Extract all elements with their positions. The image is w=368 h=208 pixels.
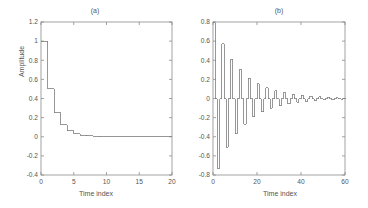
svg-text:20: 20 bbox=[168, 178, 176, 185]
panel-b-plot-area: 0204060-0.8-0.6-0.4-0.200.20.40.60.8 bbox=[184, 0, 368, 208]
svg-text:-0.6: -0.6 bbox=[199, 152, 211, 159]
svg-text:0: 0 bbox=[206, 95, 210, 102]
svg-text:-0.2: -0.2 bbox=[27, 152, 39, 159]
svg-text:1.2: 1.2 bbox=[29, 18, 38, 25]
svg-text:20: 20 bbox=[253, 178, 261, 185]
svg-text:0.6: 0.6 bbox=[29, 76, 38, 83]
svg-text:10: 10 bbox=[103, 178, 111, 185]
svg-text:-0.8: -0.8 bbox=[199, 171, 211, 178]
svg-text:0.8: 0.8 bbox=[29, 57, 38, 64]
panel-a-plot-area: 05101520-0.4-0.200.20.40.60.811.2 bbox=[0, 0, 184, 208]
svg-text:40: 40 bbox=[297, 178, 305, 185]
svg-text:60: 60 bbox=[341, 178, 349, 185]
svg-text:-0.4: -0.4 bbox=[27, 171, 39, 178]
svg-text:0.4: 0.4 bbox=[29, 95, 38, 102]
svg-text:0.8: 0.8 bbox=[201, 18, 210, 25]
svg-text:0: 0 bbox=[39, 178, 43, 185]
figure-canvas: (a) Amplitude Time index 05101520-0.4-0.… bbox=[0, 0, 368, 208]
svg-text:0: 0 bbox=[211, 178, 215, 185]
svg-text:0.2: 0.2 bbox=[29, 114, 38, 121]
svg-text:5: 5 bbox=[72, 178, 76, 185]
plot-panel-b: (b) Time index 0204060-0.8-0.6-0.4-0.200… bbox=[184, 0, 368, 208]
plot-panel-a: (a) Amplitude Time index 05101520-0.4-0.… bbox=[0, 0, 184, 208]
svg-text:-0.4: -0.4 bbox=[199, 133, 211, 140]
svg-text:15: 15 bbox=[136, 178, 144, 185]
svg-text:0.6: 0.6 bbox=[201, 37, 210, 44]
svg-text:-0.2: -0.2 bbox=[199, 114, 211, 121]
svg-text:0.4: 0.4 bbox=[201, 57, 210, 64]
svg-text:0.2: 0.2 bbox=[201, 76, 210, 83]
svg-text:1: 1 bbox=[34, 37, 38, 44]
svg-text:0: 0 bbox=[34, 133, 38, 140]
